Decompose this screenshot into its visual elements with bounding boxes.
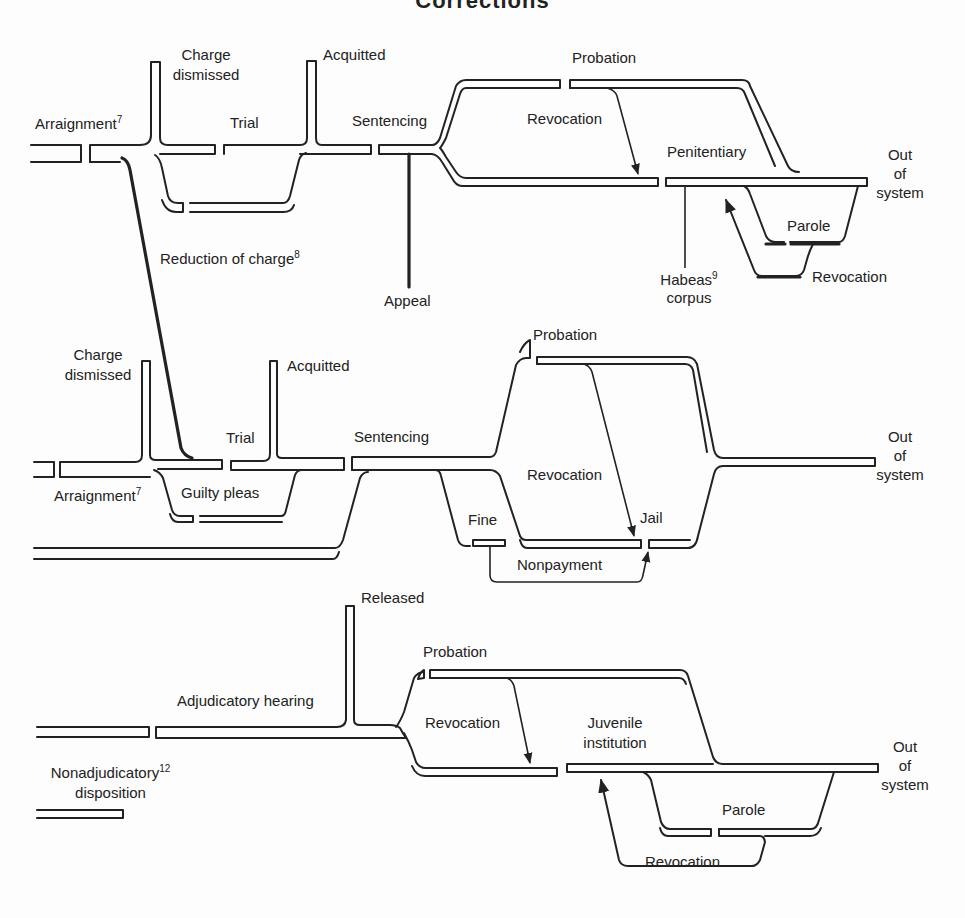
misd-out-of-system-label: Outofsystem — [870, 427, 930, 484]
nonpayment-label: Nonpayment — [517, 556, 602, 574]
corrections-flow-diagram: Corrections — [0, 0, 965, 918]
felony-flow — [31, 61, 867, 458]
juv-probation-label: Probation — [423, 643, 487, 661]
appeal-label: Appeal — [384, 292, 431, 310]
reduction-of-charge-label: Reduction of charge8 — [160, 250, 300, 268]
misd-charge-dismissed-label: Charge dismissed — [58, 345, 138, 385]
felony-out-of-system-label: Outofsystem — [870, 145, 930, 202]
adjudicatory-hearing-label: Adjudicatory hearing — [177, 692, 314, 710]
felony-revocation-label: Revocation — [527, 110, 602, 128]
penitentiary-label: Penitentiary — [667, 143, 746, 161]
misd-arraignment-label: Arraignment7 — [54, 487, 141, 505]
juv-parole-revocation-label: Revocation — [645, 853, 720, 871]
misd-sentencing-label: Sentencing — [354, 428, 429, 446]
fine-label: Fine — [468, 511, 497, 529]
jail-label: Jail — [640, 509, 663, 527]
juv-out-of-system-label: Outofsystem — [875, 737, 935, 794]
released-label: Released — [361, 589, 424, 607]
felony-acquitted-label: Acquitted — [323, 46, 386, 64]
felony-sentencing-label: Sentencing — [352, 112, 427, 130]
guilty-pleas-label: Guilty pleas — [181, 484, 259, 502]
misd-revocation-label: Revocation — [527, 466, 602, 484]
felony-parole-revocation-label: Revocation — [812, 268, 887, 286]
felony-trial-label: Trial — [230, 114, 259, 132]
felony-parole-label: Parole — [787, 217, 830, 235]
felony-probation-label: Probation — [572, 49, 636, 67]
juv-parole-label: Parole — [722, 801, 765, 819]
felony-charge-dismissed-label: Charge dismissed — [166, 45, 246, 85]
habeas-corpus-label: Habeas9corpus — [659, 271, 719, 307]
juvenile-institution-label: Juvenileinstitution — [560, 713, 670, 753]
misd-trial-label: Trial — [226, 429, 255, 447]
felony-arraignment-label: Arraignment7 — [35, 115, 122, 133]
nonadjudicatory-disposition-label: Nonadjudicatory12disposition — [38, 763, 183, 803]
misdemeanor-flow — [34, 340, 875, 582]
juv-revocation-label: Revocation — [425, 714, 500, 732]
misd-acquitted-label: Acquitted — [287, 357, 350, 375]
misd-probation-label: Probation — [533, 326, 597, 344]
